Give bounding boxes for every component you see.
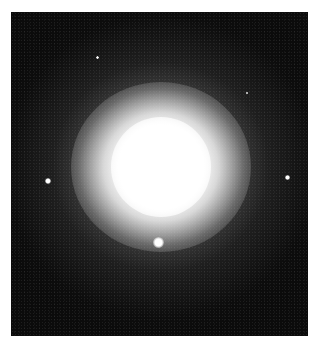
star-left [45, 178, 51, 184]
star-upper-right-small [246, 92, 248, 94]
galaxy-image [11, 12, 308, 336]
star-top-small [96, 56, 99, 59]
star-right [285, 175, 290, 180]
star-bottom [153, 237, 164, 248]
galaxy-core [111, 117, 211, 217]
